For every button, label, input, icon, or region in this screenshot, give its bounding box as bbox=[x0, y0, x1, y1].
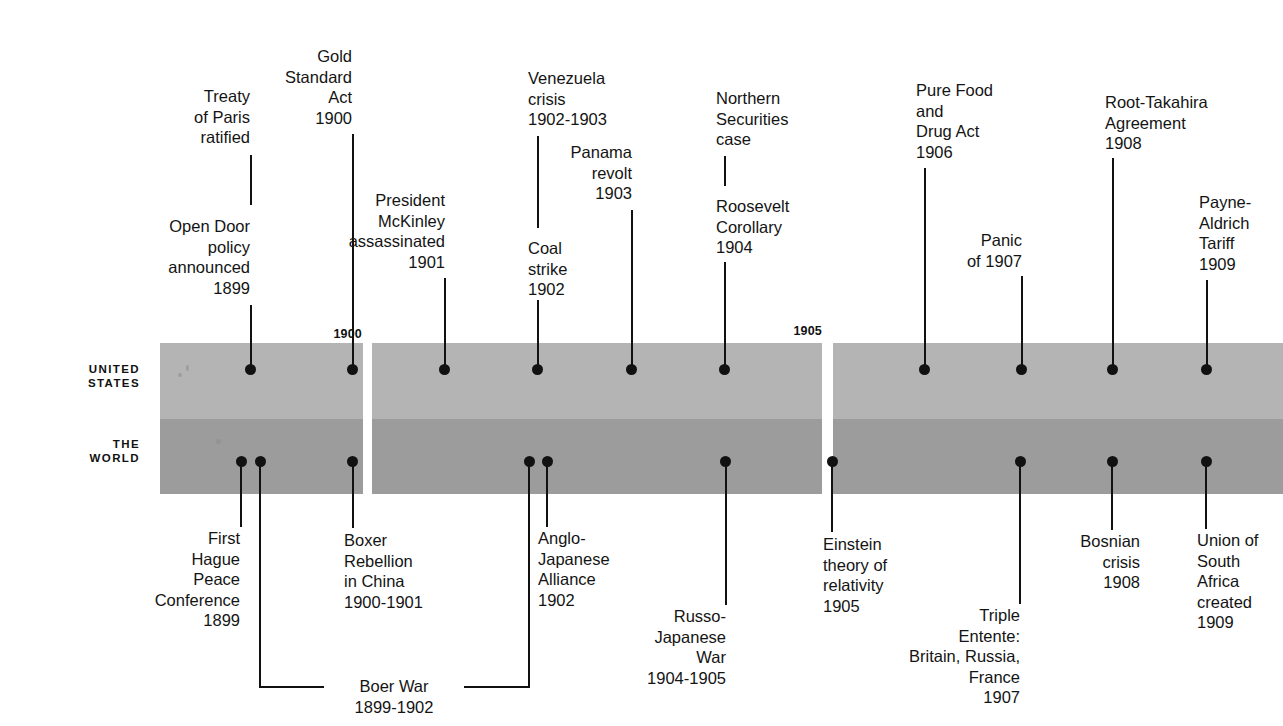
row-label-united-states: UNITED STATES bbox=[20, 362, 140, 390]
event-label-roosevelt-corollary: Roosevelt Corollary 1904 bbox=[716, 196, 866, 258]
leader-stem-payne-aldrich-tariff bbox=[1206, 280, 1208, 369]
event-label-treaty-of-paris: Treaty of Paris ratified bbox=[110, 86, 250, 148]
band-the-world-segment-3 bbox=[833, 419, 1283, 494]
event-dot-coal-strike bbox=[532, 364, 543, 375]
event-label-coal-strike: Coal strike 1902 bbox=[528, 238, 648, 300]
event-label-einstein-relativity: Einstein theory of relativity 1905 bbox=[823, 534, 953, 616]
leader-stem-russo-japanese-war bbox=[725, 461, 727, 605]
leader-stem-anglo-japanese-alliance bbox=[546, 461, 548, 527]
band-the-world-segment-2 bbox=[372, 419, 822, 494]
leader-stem-open-door-policy bbox=[250, 305, 252, 369]
leader-stem-first-hague-conference bbox=[240, 461, 242, 527]
leader-stem-panama-revolt bbox=[631, 210, 633, 369]
leader-stem-panic-of-1907 bbox=[1021, 276, 1023, 369]
event-label-bosnian-crisis: Bosnian crisis 1908 bbox=[1020, 531, 1140, 593]
event-label-root-takahira-agreement: Root-Takahira Agreement 1908 bbox=[1105, 92, 1270, 154]
leader-stem-coal-strike bbox=[537, 300, 539, 369]
scan-speckle bbox=[186, 365, 189, 371]
event-dot-mckinley-assassinated bbox=[439, 364, 450, 375]
band-united-states-segment-3 bbox=[833, 343, 1283, 419]
event-dot-pure-food-and-drug-act bbox=[919, 364, 930, 375]
event-dot-roosevelt-corollary bbox=[719, 364, 730, 375]
band-united-states-segment-1 bbox=[160, 343, 363, 419]
event-label-open-door-policy: Open Door policy announced 1899 bbox=[100, 216, 250, 298]
boer-war-bracket-left-leg bbox=[259, 461, 261, 688]
event-label-panic-of-1907: Panic of 1907 bbox=[912, 230, 1022, 271]
event-dot-panic-of-1907 bbox=[1016, 364, 1027, 375]
event-label-mckinley-assassinated: President McKinley assassinated 1901 bbox=[290, 190, 445, 272]
leader-stem-root-takahira-agreement bbox=[1112, 158, 1114, 369]
scan-speckle bbox=[178, 373, 182, 377]
leader-stem-boxer-rebellion bbox=[352, 461, 354, 528]
event-label-panama-revolt: Panama revolt 1903 bbox=[532, 142, 632, 204]
event-label-anglo-japanese-alliance: Anglo- Japanese Alliance 1902 bbox=[538, 528, 688, 610]
event-label-pure-food-and-drug-act: Pure Food and Drug Act 1906 bbox=[916, 80, 1056, 162]
event-label-russo-japanese-war: Russo- Japanese War 1904-1905 bbox=[600, 606, 726, 688]
leader-stem-einstein-relativity bbox=[831, 461, 833, 532]
event-label-union-of-south-africa: Union of South Africa created 1909 bbox=[1197, 530, 1283, 633]
boer-war-bracket-right-leg bbox=[528, 461, 530, 688]
row-label-the-world: THE WORLD bbox=[20, 437, 140, 465]
event-label-boer-war: Boer War 1899-1902 bbox=[324, 676, 464, 717]
leader-stem-mckinley-assassinated bbox=[444, 278, 446, 369]
event-label-boxer-rebellion: Boxer Rebellion in China 1900-1901 bbox=[344, 530, 494, 612]
leader-stem-northern-securities-case bbox=[724, 156, 726, 186]
event-label-venezuela-crisis: Venezuela crisis 1902-1903 bbox=[528, 68, 688, 130]
timeline-infographic: UNITED STATES THE WORLD 1900 1905 Treaty… bbox=[0, 0, 1283, 726]
event-dot-payne-aldrich-tariff bbox=[1201, 364, 1212, 375]
event-dot-gold-standard-act bbox=[347, 364, 358, 375]
event-dot-root-takahira-agreement bbox=[1107, 364, 1118, 375]
leader-stem-roosevelt-corollary bbox=[724, 262, 726, 369]
event-label-payne-aldrich-tariff: Payne- Aldrich Tariff 1909 bbox=[1199, 192, 1283, 274]
band-united-states-segment-2 bbox=[372, 343, 822, 419]
event-label-gold-standard-act: Gold Standard Act 1900 bbox=[232, 46, 352, 128]
year-marker-1905: 1905 bbox=[752, 324, 822, 338]
event-label-first-hague-conference: First Hague Peace Conference 1899 bbox=[115, 528, 240, 631]
leader-stem-treaty-of-paris bbox=[250, 155, 252, 205]
event-dot-panama-revolt bbox=[626, 364, 637, 375]
event-label-northern-securities-case: Northern Securities case bbox=[716, 88, 866, 150]
event-dot-open-door-policy bbox=[245, 364, 256, 375]
event-label-triple-entente: Triple Entente: Britain, Russia, France … bbox=[845, 605, 1020, 708]
scan-speckle bbox=[216, 439, 221, 444]
leader-stem-bosnian-crisis bbox=[1111, 461, 1113, 530]
leader-stem-union-of-south-africa bbox=[1205, 461, 1207, 529]
